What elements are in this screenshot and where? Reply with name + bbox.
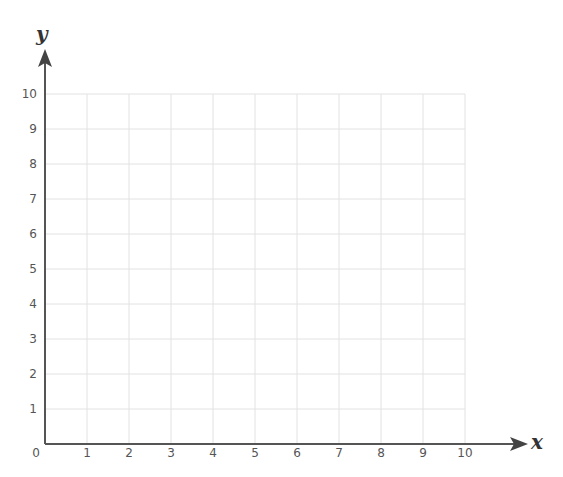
coordinate-grid-chart: 012345678910 12345678910 x y — [0, 0, 563, 477]
x-tick-label: 4 — [209, 446, 217, 460]
x-tick-label: 9 — [419, 446, 427, 460]
x-tick-label: 3 — [167, 446, 175, 460]
x-tick-labels: 012345678910 — [32, 446, 472, 460]
y-tick-label: 1 — [29, 402, 37, 416]
y-tick-label: 10 — [22, 87, 37, 101]
x-axis-label: x — [530, 430, 544, 454]
x-tick-label: 5 — [251, 446, 259, 460]
grid-lines — [45, 94, 465, 444]
x-tick-label: 8 — [377, 446, 385, 460]
y-tick-label: 3 — [29, 332, 37, 346]
x-tick-label: 10 — [457, 446, 472, 460]
y-axis-label: y — [35, 22, 49, 46]
x-tick-label: 6 — [293, 446, 301, 460]
x-tick-label: 1 — [83, 446, 91, 460]
y-tick-label: 8 — [29, 157, 37, 171]
x-tick-label: 7 — [335, 446, 343, 460]
y-tick-label: 7 — [29, 192, 37, 206]
y-tick-label: 5 — [29, 262, 37, 276]
y-tick-labels: 12345678910 — [22, 87, 37, 416]
y-tick-label: 2 — [29, 367, 37, 381]
y-tick-label: 4 — [29, 297, 37, 311]
axes — [38, 49, 528, 451]
y-tick-label: 9 — [29, 122, 37, 136]
x-tick-label: 2 — [125, 446, 133, 460]
y-tick-label: 6 — [29, 227, 37, 241]
x-tick-label: 0 — [32, 446, 40, 460]
